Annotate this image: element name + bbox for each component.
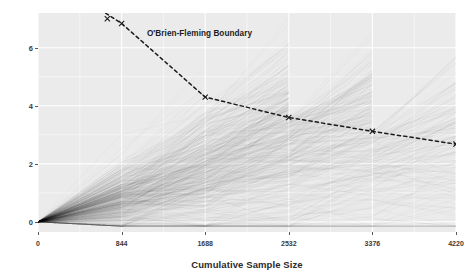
y-tick-mark (35, 222, 38, 223)
x-tick-label: 4220 (448, 240, 464, 247)
x-tick-mark (456, 232, 457, 235)
x-tick-mark (38, 232, 39, 235)
x-tick-label: 0 (36, 240, 40, 247)
y-tick-mark (35, 164, 38, 165)
y-tick-mark (35, 106, 38, 107)
y-axis-title: Cumulative Z-score (9, 0, 23, 13)
plot-panel (38, 13, 456, 232)
x-tick-mark (122, 232, 123, 235)
boundary-annotation: O'Brien-Fleming Boundary (147, 29, 252, 38)
x-tick-label: 1688 (197, 240, 213, 247)
x-tick-mark (372, 232, 373, 235)
chart-figure: O'Brien-Fleming Boundary 084416882532337… (0, 0, 466, 280)
y-tick-mark (35, 48, 38, 49)
x-axis-title: Cumulative Sample Size (38, 259, 456, 270)
y-axis-title-wrap: Cumulative Z-score (12, 13, 26, 232)
x-tick-mark (289, 232, 290, 235)
x-tick-mark (205, 232, 206, 235)
x-tick-label: 2532 (281, 240, 297, 247)
x-tick-label: 844 (116, 240, 128, 247)
obrien-fleming-boundary (38, 13, 456, 232)
x-tick-label: 3376 (365, 240, 381, 247)
